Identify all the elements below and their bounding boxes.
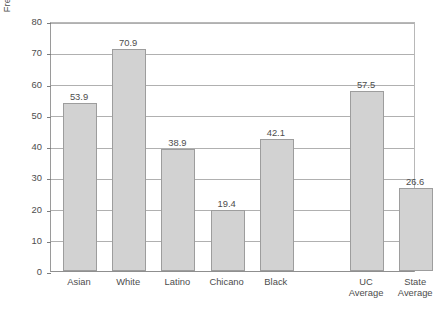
y-axis-tick-label: 70 <box>8 48 42 58</box>
bar-white <box>112 49 146 271</box>
y-axis-tick-label: 40 <box>8 142 42 152</box>
y-axis-tick-label: 50 <box>8 111 42 121</box>
y-axis-tick-label: 20 <box>8 205 42 215</box>
y-axis-tick-label: 30 <box>8 173 42 183</box>
bar-asian <box>63 103 97 271</box>
bar-value-label: 42.1 <box>249 127 303 138</box>
y-axis-tick-label: 80 <box>8 17 42 27</box>
gridline <box>51 23 414 24</box>
bar-value-label: 38.9 <box>150 137 204 148</box>
y-axis-tick <box>47 23 51 24</box>
y-axis-tick <box>47 54 51 55</box>
bar-latino <box>161 149 195 271</box>
y-axis-tick <box>47 242 51 243</box>
bar-value-label: 57.5 <box>339 79 393 90</box>
y-axis-tick <box>47 86 51 87</box>
figure-caption <box>86 306 386 316</box>
bar-uc-average <box>350 91 384 271</box>
bar-chicano <box>211 210 245 271</box>
bar-state-average <box>399 188 433 271</box>
x-axis-category-label-line2: Average <box>384 288 434 299</box>
x-axis-category-label: Black <box>245 277 307 288</box>
plot-area <box>50 22 415 272</box>
bar-value-label: 19.4 <box>200 198 254 209</box>
bar-black <box>260 139 294 271</box>
y-axis-tick <box>47 273 51 274</box>
bar-value-label: 70.9 <box>101 37 155 48</box>
y-axis-tick-label: 10 <box>8 236 42 246</box>
y-axis-tick <box>47 211 51 212</box>
y-axis-tick <box>47 148 51 149</box>
bar-chart-figure: Freshmen Whose Fathers Have a BA (%) 010… <box>0 0 434 316</box>
bar-value-label: 53.9 <box>52 91 106 102</box>
gridline <box>51 54 414 55</box>
bar-value-label: 26.6 <box>388 176 434 187</box>
y-axis-tick <box>47 179 51 180</box>
y-axis-tick-label: 0 <box>8 267 42 277</box>
y-axis-tick <box>47 117 51 118</box>
y-axis-tick-label: 60 <box>8 80 42 90</box>
x-axis-category-label: StateAverage <box>384 277 434 298</box>
